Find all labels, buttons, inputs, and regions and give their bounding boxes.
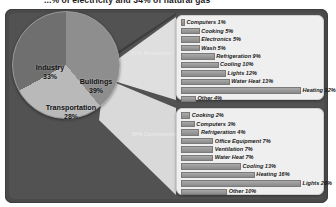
commercial-bar [181, 172, 255, 178]
commercial-label: Heating 16% [256, 171, 289, 178]
commercial-bar [181, 121, 195, 127]
commercial-bar-panel: Cooking 2%Computers 3%Refrigeration 4%Of… [176, 108, 324, 195]
residential-bar-panel: Computers 1%Cooking 5%Electronics 5%Wash… [176, 15, 324, 100]
residential-row: Cooling 10% [181, 61, 319, 68]
commercial-row: Other 10% [181, 188, 319, 195]
connector-dash-residential [170, 54, 174, 55]
commercial-label: Computers 3% [196, 121, 235, 128]
residential-bar [181, 96, 196, 102]
connector-label-residential: 21% Residential [131, 50, 174, 56]
commercial-row: Ventilation 7% [181, 146, 319, 153]
commercial-label: Cooking 2% [192, 112, 224, 119]
pie-label-buildings-percent: 39% [70, 86, 122, 95]
residential-label: Cooling 10% [220, 61, 254, 68]
commercial-label: Ventilation 7% [215, 146, 253, 153]
commercial-bar [181, 155, 213, 161]
commercial-label: Other 10% [229, 188, 257, 195]
commercial-row: Water Heat 7% [181, 154, 319, 161]
residential-bar [181, 19, 185, 25]
residential-row: Cooking 5% [181, 27, 319, 34]
pie-chart: Industry 33% Buildings 39% Transportatio… [12, 11, 122, 121]
pie-label-transportation: Transportation 28% [34, 103, 108, 121]
pie-label-transportation-name: Transportation [46, 103, 96, 112]
commercial-row: Refrigeration 4% [181, 129, 319, 136]
commercial-bar [181, 163, 241, 169]
residential-bar [181, 79, 230, 85]
commercial-row: Office Equipment 7% [181, 137, 319, 144]
residential-row: Lights 12% [181, 70, 319, 77]
residential-row: Heating 32% [181, 87, 319, 94]
commercial-row: Computers 3% [181, 120, 319, 127]
commercial-row: Lights 26% [181, 180, 319, 187]
residential-label: Cooking 5% [201, 28, 233, 35]
residential-bar [181, 45, 200, 51]
residential-label: Heating 32% [303, 87, 336, 94]
commercial-label: Cooling 13% [243, 163, 277, 170]
pie-label-industry: Industry 33% [28, 63, 72, 81]
commercial-bar [181, 112, 190, 118]
commercial-bar [181, 146, 213, 152]
residential-bar-rows: Computers 1%Cooking 5%Electronics 5%Wash… [181, 19, 319, 102]
residential-bar [181, 28, 200, 34]
commercial-row: Heating 16% [181, 171, 319, 178]
commercial-bar-rows: Cooking 2%Computers 3%Refrigeration 4%Of… [181, 112, 319, 195]
commercial-bar [181, 180, 301, 186]
residential-label: Water Heat 13% [231, 78, 273, 85]
residential-label: Electronics 5% [201, 36, 241, 43]
residential-bar [181, 70, 226, 76]
commercial-row: Cooking 2% [181, 112, 319, 119]
pie-label-transportation-percent: 28% [34, 112, 108, 121]
pie-label-industry-name: Industry [36, 63, 64, 72]
commercial-bar [181, 189, 227, 195]
residential-row: Computers 1% [181, 19, 319, 26]
residential-label: Refrigeration 9% [216, 53, 260, 60]
residential-row: Electronics 5% [181, 36, 319, 43]
residential-bar [181, 53, 215, 59]
residential-row: Refrigeration 9% [181, 53, 319, 60]
residential-bar [181, 62, 219, 68]
residential-label: Wash 5% [201, 45, 225, 52]
residential-row: Wash 5% [181, 44, 319, 51]
connector-dash-commercial [170, 135, 174, 136]
pie-label-buildings-name: Buildings [80, 77, 113, 86]
residential-bar [181, 87, 301, 93]
residential-bar [181, 36, 200, 42]
residential-label: Other 4% [198, 95, 223, 102]
residential-label: Computers 1% [187, 19, 226, 26]
commercial-bar [181, 129, 199, 135]
commercial-label: Lights 26% [303, 180, 333, 187]
commercial-bar [181, 138, 213, 144]
commercial-label: Office Equipment 7% [215, 138, 271, 145]
pie-label-industry-percent: 33% [28, 72, 72, 81]
residential-label: Lights 12% [228, 70, 258, 77]
commercial-row: Cooling 13% [181, 163, 319, 170]
commercial-label: Water Heat 7% [215, 154, 254, 161]
pie-label-buildings: Buildings 39% [70, 77, 122, 95]
commercial-label: Refrigeration 4% [201, 129, 245, 136]
residential-row: Water Heat 13% [181, 78, 319, 85]
residential-row: Other 4% [181, 95, 319, 102]
